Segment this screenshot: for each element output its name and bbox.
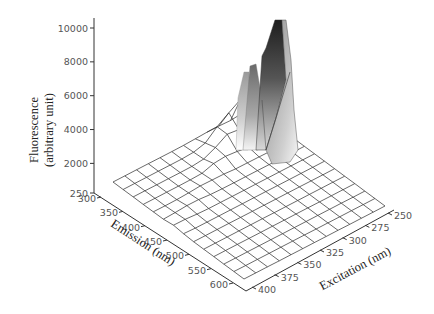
z-axis-title-line1: Fluorescence [27,97,41,163]
mesh-line-excitation [148,164,279,261]
excitation-tick-mark [320,250,324,252]
z-axis-title-line2: (arbitrary unit) [42,93,56,167]
excitation-tick-mark [388,213,392,215]
emission-tick-mark [97,197,101,198]
z-tick-label: 6000 [64,90,88,101]
z-tick-label: 8000 [64,56,88,67]
emission-tick-label: 300 [78,193,96,204]
mesh-line-excitation [172,152,303,249]
mesh-line-excitation [125,176,256,273]
z-axis-ticks: 100008000600040002000250 [58,23,94,199]
emission-tick-label: 600 [210,279,228,290]
mesh-line-excitation [184,145,315,242]
emission-tick-mark [163,240,167,241]
excitation-tick-mark [252,287,256,289]
emission-tick-mark [207,269,211,270]
excitation-tick-mark [343,238,347,240]
emission-tick-mark [229,283,233,284]
excitation-tick-label: 275 [371,222,389,233]
emission-tick-label: 550 [188,265,206,276]
z-tick-label: 10000 [58,23,88,34]
excitation-tick-mark [297,262,301,264]
excitation-tick-label: 300 [349,235,367,246]
emission-tick-mark [141,226,145,227]
excitation-tick-mark [275,275,279,277]
z-tick-label: 2000 [64,158,88,169]
z-axis-title: Fluorescence (arbitrary unit) [27,93,56,167]
excitation-tick-label: 325 [326,247,344,258]
fluorescence-peak [236,20,298,164]
fluorescence-surface-chart: Fluorescence (arbitrary unit) 1000080006… [0,0,434,314]
z-axis: 100008000600040002000250 [58,18,94,199]
emission-tick-mark [119,211,123,212]
excitation-tick-label: 350 [303,259,321,270]
emission-tick-mark [185,254,189,255]
excitation-tick-mark [365,225,369,227]
excitation-tick-label: 400 [258,284,276,295]
z-tick-label: 4000 [64,124,88,135]
mesh-line-excitation [195,139,326,237]
excitation-tick-label: 375 [281,272,299,283]
mesh-line-excitation [160,158,291,255]
excitation-tick-label: 250 [394,210,412,221]
